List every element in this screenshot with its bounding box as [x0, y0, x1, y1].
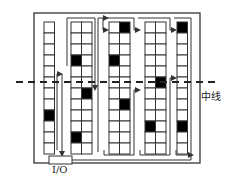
- storage-cell: [82, 55, 93, 66]
- storage-cell: [71, 143, 82, 154]
- storage-cell: [109, 110, 120, 121]
- storage-cell-occupied: [82, 88, 93, 99]
- storage-cell: [109, 143, 120, 154]
- storage-cell-occupied: [109, 55, 120, 66]
- storage-cell: [44, 55, 55, 66]
- storage-cell: [145, 99, 156, 110]
- storage-cell: [71, 88, 82, 99]
- storage-cell: [120, 88, 131, 99]
- storage-cell: [82, 143, 93, 154]
- rack-col1: [44, 22, 55, 154]
- storage-cell: [109, 44, 120, 55]
- storage-cell: [145, 44, 156, 55]
- storage-cell: [120, 143, 131, 154]
- storage-cell: [44, 121, 55, 132]
- storage-cell: [82, 132, 93, 143]
- storage-cell: [82, 22, 93, 33]
- storage-cell: [145, 110, 156, 121]
- storage-cell-occupied: [44, 110, 55, 121]
- storage-cell: [177, 33, 188, 44]
- storage-cell: [120, 33, 131, 44]
- storage-cell: [156, 99, 167, 110]
- storage-cell: [156, 22, 167, 33]
- route-segment: [57, 74, 60, 150]
- storage-cell: [109, 121, 120, 132]
- storage-cell: [120, 44, 131, 55]
- storage-cell: [156, 44, 167, 55]
- rack-col5: [177, 22, 188, 154]
- storage-cell: [82, 121, 93, 132]
- storage-cell: [156, 110, 167, 121]
- io-station: [49, 156, 72, 164]
- storage-cell: [44, 66, 55, 77]
- rack-col3: [109, 22, 130, 154]
- storage-cell: [71, 44, 82, 55]
- storage-cell: [109, 22, 120, 33]
- storage-cell: [82, 33, 93, 44]
- storage-cell: [145, 132, 156, 143]
- storage-cell: [177, 55, 188, 66]
- storage-cell: [156, 121, 167, 132]
- storage-cell: [120, 110, 131, 121]
- storage-cell: [82, 66, 93, 77]
- storage-cell-occupied: [145, 121, 156, 132]
- storage-cell: [44, 33, 55, 44]
- midline-label: 中线: [201, 88, 221, 103]
- storage-cell: [177, 99, 188, 110]
- io-label: I/O: [52, 164, 68, 175]
- storage-racks: [44, 22, 188, 154]
- storage-cell: [44, 44, 55, 55]
- storage-cell: [82, 110, 93, 121]
- storage-cell-occupied: [71, 55, 82, 66]
- storage-cell: [145, 66, 156, 77]
- storage-cell: [44, 143, 55, 154]
- storage-cell: [177, 44, 188, 55]
- rack-col2: [71, 22, 92, 154]
- storage-cell: [145, 22, 156, 33]
- storage-layout-diagram: [0, 0, 230, 188]
- storage-cell: [156, 55, 167, 66]
- storage-cell: [109, 33, 120, 44]
- storage-cell: [177, 110, 188, 121]
- storage-cell-occupied: [120, 22, 131, 33]
- storage-cell-occupied: [71, 132, 82, 143]
- storage-cell: [145, 55, 156, 66]
- storage-cell: [71, 22, 82, 33]
- storage-cell-occupied: [177, 22, 188, 33]
- storage-cell: [156, 66, 167, 77]
- storage-cell: [109, 66, 120, 77]
- storage-cell: [177, 143, 188, 154]
- rack-col4: [145, 22, 166, 154]
- storage-cell-occupied: [177, 121, 188, 132]
- storage-cell: [44, 22, 55, 33]
- route-segment: [98, 18, 106, 152]
- storage-cell: [156, 88, 167, 99]
- storage-cell: [145, 33, 156, 44]
- storage-cell: [109, 88, 120, 99]
- storage-cell: [82, 99, 93, 110]
- storage-cell: [177, 66, 188, 77]
- storage-cell: [156, 132, 167, 143]
- storage-cell: [82, 44, 93, 55]
- storage-cell-occupied: [120, 99, 131, 110]
- storage-cell: [71, 110, 82, 121]
- storage-cell: [120, 66, 131, 77]
- storage-cell: [71, 66, 82, 77]
- storage-cell: [44, 99, 55, 110]
- storage-cell: [156, 143, 167, 154]
- storage-cell: [71, 33, 82, 44]
- storage-cell: [44, 132, 55, 143]
- storage-cell: [44, 88, 55, 99]
- storage-cell: [109, 132, 120, 143]
- storage-cell: [177, 88, 188, 99]
- storage-cell: [156, 33, 167, 44]
- storage-cell: [177, 132, 188, 143]
- storage-cell: [145, 88, 156, 99]
- storage-cell: [71, 99, 82, 110]
- storage-cell: [145, 143, 156, 154]
- storage-cell: [71, 121, 82, 132]
- io-box: [49, 156, 72, 164]
- storage-cell: [120, 55, 131, 66]
- storage-cell: [120, 132, 131, 143]
- storage-cell: [109, 99, 120, 110]
